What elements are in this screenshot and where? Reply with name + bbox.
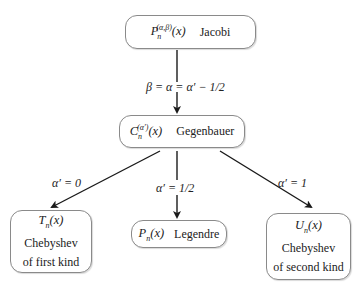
node-gegenbauer: Cn(α′)(x) Gegenbauer — [119, 115, 245, 148]
chebyshev-second-line2: of second kind — [273, 258, 344, 277]
node-legendre: Pn(x) Legendre — [131, 220, 227, 248]
gegenbauer-label: Gegenbauer — [176, 124, 234, 139]
gegenbauer-symbol: Cn(α′)(x) — [130, 123, 163, 141]
chebyshev-first-line1: Chebyshev — [24, 234, 77, 253]
jacobi-label: Jacobi — [200, 25, 231, 40]
legendre-symbol: Pn(x) — [139, 226, 165, 243]
node-jacobi: Pn(α,β)(x) Jacobi — [125, 15, 256, 49]
chebyshev-second-symbol: Un(x) — [295, 216, 322, 240]
edge-label-chebyshev-first: α′ = 0 — [52, 176, 81, 191]
node-chebyshev-first: Tn(x) Chebyshev of first kind — [10, 210, 92, 273]
node-chebyshev-second: Un(x) Chebyshev of second kind — [266, 213, 351, 280]
jacobi-symbol: Pn(α,β)(x) — [151, 23, 186, 41]
legendre-label: Legendre — [174, 227, 219, 242]
edge-label-chebyshev-second: α′ = 1 — [278, 176, 307, 191]
chebyshev-first-symbol: Tn(x) — [39, 211, 64, 235]
chebyshev-first-line2: of first kind — [23, 253, 80, 272]
edge-label-jacobi-gegenbauer: β = α = α′ − 1/2 — [146, 80, 225, 95]
chebyshev-second-line1: Chebyshev — [282, 239, 335, 258]
edge-label-legendre: α′ = 1/2 — [156, 181, 194, 196]
